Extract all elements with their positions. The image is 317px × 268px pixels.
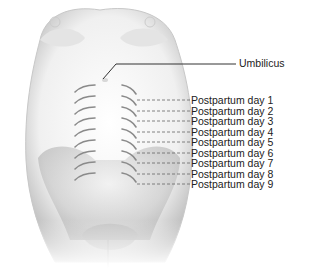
day-label-1: Postpartum day 1 — [191, 95, 273, 106]
day-label-5: Postpartum day 5 — [191, 137, 273, 148]
day-label-3: Postpartum day 3 — [191, 116, 273, 127]
umbilicus-label: Umbilicus — [239, 58, 285, 69]
day-label-7: Postpartum day 7 — [191, 158, 273, 169]
day-label-9: Postpartum day 9 — [191, 179, 273, 190]
